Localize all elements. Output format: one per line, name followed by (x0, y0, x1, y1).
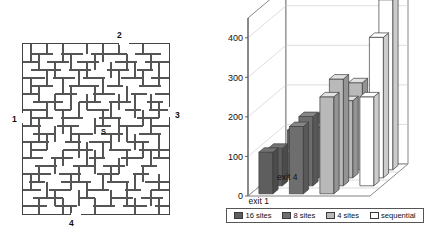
bar-chart-3d: 0100200300400exit 1exit 4 (215, 0, 430, 243)
legend-entry-sequential: sequential (370, 211, 416, 220)
maze-exit-label-3: 3 (175, 111, 180, 120)
figure-root: 1 2 3 4 S seconds 0100200300400exit 1exi… (0, 0, 430, 243)
legend-label-16-sites: 16 sites (245, 211, 271, 220)
svg-text:400: 400 (228, 33, 243, 43)
maze-exit-label-2: 2 (117, 31, 122, 40)
maze-exit-label-1: 1 (12, 115, 17, 124)
maze-outer-wall (22, 43, 170, 215)
svg-text:100: 100 (228, 152, 243, 162)
legend-label-4-sites: 4 sites (337, 211, 359, 220)
svg-text:300: 300 (228, 73, 243, 83)
legend-swatch-4-sites (326, 212, 335, 219)
legend-entry-4-sites: 4 sites (326, 211, 359, 220)
legend-swatch-sequential (370, 212, 379, 219)
maze-gap-4 (71, 213, 81, 216)
legend-label-sequential: sequential (381, 211, 416, 220)
maze-gap-3 (168, 107, 171, 117)
maze-walls (23, 44, 169, 214)
chart-panel: seconds 0100200300400exit 1exit 4 16 sit… (215, 0, 430, 243)
maze-panel: 1 2 3 4 S (0, 0, 215, 243)
chart-legend: 16 sites 8 sites 4 sites sequential (226, 208, 424, 223)
legend-swatch-8-sites (282, 212, 291, 219)
maze-gap-1 (21, 113, 24, 123)
svg-text:200: 200 (228, 112, 243, 122)
maze-start-marker: S (101, 127, 106, 136)
legend-label-8-sites: 8 sites (293, 211, 315, 220)
maze-exit-label-4: 4 (69, 219, 74, 228)
x-axis-tick-label: exit 1 (249, 196, 270, 206)
legend-swatch-16-sites (234, 212, 243, 219)
svg-text:0: 0 (238, 191, 243, 201)
x-axis-tick-label: exit 4 (277, 172, 298, 182)
maze-gap-2 (119, 42, 129, 45)
legend-entry-8-sites: 8 sites (282, 211, 315, 220)
legend-entry-16-sites: 16 sites (234, 211, 271, 220)
